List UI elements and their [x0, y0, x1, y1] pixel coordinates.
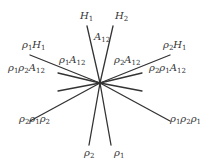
- label-rho2: ρ2: [84, 148, 94, 160]
- label-rho1rho2A12: ρ1ρ2A12: [8, 63, 45, 75]
- label-rho1rho2rho1: ρ1ρ2ρ1: [170, 114, 201, 126]
- label-rho1A12: ρ1A12: [59, 55, 86, 67]
- line-arrangement-diagram: [0, 0, 210, 161]
- label-H2: H2: [115, 11, 128, 23]
- label-H1: H1: [80, 11, 93, 23]
- line-rho2: [89, 83, 100, 145]
- label-rho2A12: ρ2A12: [114, 55, 141, 67]
- label-rho2H1: ρ2H1: [163, 40, 187, 52]
- label-A12: A12: [94, 32, 110, 44]
- label-rho2rho1rho2: ρ2ρ1ρ2: [19, 114, 50, 126]
- label-rho1: ρ1: [114, 148, 124, 160]
- line-rho1rho2rho1: [100, 83, 170, 121]
- label-rho1H1: ρ1H1: [22, 40, 46, 52]
- line-rho1: [100, 83, 111, 145]
- label-rho2rho1A12: ρ2ρ1A12: [149, 63, 186, 75]
